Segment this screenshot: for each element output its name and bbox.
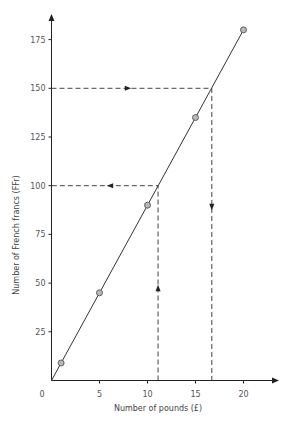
data-point xyxy=(241,27,247,33)
origin-label: 0 xyxy=(39,390,44,399)
y-tick-label: 75 xyxy=(35,230,45,239)
labels: 51015202550751001251501750Number of poun… xyxy=(12,36,249,413)
y-tick-label: 150 xyxy=(30,84,45,93)
x-tick-label: 5 xyxy=(97,390,102,399)
data-point xyxy=(193,115,199,121)
data-point xyxy=(58,360,64,366)
x-tick-label: 15 xyxy=(190,390,200,399)
y-axis-label: Number of French francs (FFr) xyxy=(12,175,21,294)
arrow-left-icon xyxy=(107,183,113,188)
data-point xyxy=(97,290,103,296)
series xyxy=(52,27,247,381)
data-point xyxy=(145,202,151,208)
x-tick-label: 10 xyxy=(142,390,152,399)
axes xyxy=(49,15,279,384)
arrow-down-icon xyxy=(209,204,214,210)
y-tick-label: 25 xyxy=(35,328,45,337)
arrow-right-icon xyxy=(125,86,131,91)
chart: 51015202550751001251501750Number of poun… xyxy=(0,0,292,431)
y-tick-label: 125 xyxy=(30,133,45,142)
y-tick-label: 100 xyxy=(30,182,45,191)
y-tick-label: 50 xyxy=(35,279,45,288)
arrow-up-icon xyxy=(156,285,161,291)
x-tick-label: 20 xyxy=(238,390,248,399)
x-axis-label: Number of pounds (£) xyxy=(114,404,202,413)
y-tick-label: 175 xyxy=(30,36,45,45)
